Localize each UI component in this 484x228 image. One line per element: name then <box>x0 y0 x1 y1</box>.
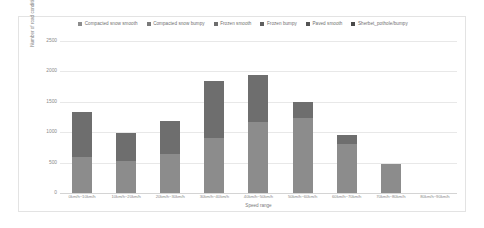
stacked-bar[interactable] <box>116 133 136 193</box>
x-axis-tick-label: 60km/h~70km/h <box>325 195 369 199</box>
y-axis-tick-label: 0 <box>33 191 57 196</box>
bar-series-container <box>60 41 457 193</box>
x-axis-tick-label: 40km/h~50km/h <box>236 195 280 199</box>
x-axis-title: Speed range <box>60 204 457 209</box>
x-axis-tick-label: 10km/h~20km/h <box>104 195 148 199</box>
plot-area: Number of road condition 050010001500200… <box>19 17 467 213</box>
stacked-bar[interactable] <box>293 102 313 193</box>
bar-segment[interactable] <box>72 157 92 193</box>
bar-segment[interactable] <box>293 102 313 118</box>
bar-segment[interactable] <box>381 164 401 193</box>
bar-segment[interactable] <box>248 122 268 193</box>
y-axis-tick-label: 1500 <box>33 99 57 104</box>
y-axis-tick-label: 500 <box>33 160 57 165</box>
y-axis-tick-label: 2500 <box>33 39 57 44</box>
bar-group[interactable] <box>413 41 457 193</box>
x-axis-tick-label: 20km/h~30km/h <box>148 195 192 199</box>
bar-segment[interactable] <box>116 161 136 193</box>
bar-group[interactable] <box>192 41 236 193</box>
bar-group[interactable] <box>281 41 325 193</box>
x-axis-tick-label: 0km/h~10km/h <box>60 195 104 199</box>
bar-segment[interactable] <box>337 144 357 193</box>
stacked-bar[interactable] <box>248 75 268 193</box>
bar-group[interactable] <box>236 41 280 193</box>
x-axis-tick-label: 70km/h~80km/h <box>369 195 413 199</box>
bar-group[interactable] <box>148 41 192 193</box>
stacked-bar[interactable] <box>204 81 224 193</box>
stacked-bar[interactable] <box>381 164 401 193</box>
bar-group[interactable] <box>60 41 104 193</box>
bar-segment[interactable] <box>160 121 180 154</box>
x-axis-tick-labels: 0km/h~10km/h10km/h~20km/h20km/h~30km/h30… <box>60 195 457 199</box>
y-axis-tick-label: 1000 <box>33 130 57 135</box>
y-axis-tick-labels: 05001000150020002500 <box>33 41 57 193</box>
x-axis-tick-label: 50km/h~60km/h <box>281 195 325 199</box>
bar-segment[interactable] <box>116 133 136 161</box>
bar-group[interactable] <box>104 41 148 193</box>
x-axis-tick-label: 30km/h~40km/h <box>192 195 236 199</box>
stacked-bar[interactable] <box>160 121 180 193</box>
bar-segment[interactable] <box>204 81 224 138</box>
bar-group[interactable] <box>325 41 369 193</box>
x-axis-tick-label: 80km/h~90km/h <box>413 195 457 199</box>
bar-segment[interactable] <box>72 112 92 157</box>
bar-segment[interactable] <box>160 154 180 193</box>
bar-group[interactable] <box>369 41 413 193</box>
bar-segment[interactable] <box>337 135 357 144</box>
chart-container: Compacted snow smoothCompacted snow bump… <box>18 16 466 212</box>
stacked-bar[interactable] <box>337 135 357 193</box>
bar-segment[interactable] <box>293 118 313 193</box>
bar-segment[interactable] <box>248 75 268 122</box>
stacked-bar[interactable] <box>72 112 92 193</box>
y-axis-tick-label: 2000 <box>33 69 57 74</box>
bar-segment[interactable] <box>204 138 224 193</box>
